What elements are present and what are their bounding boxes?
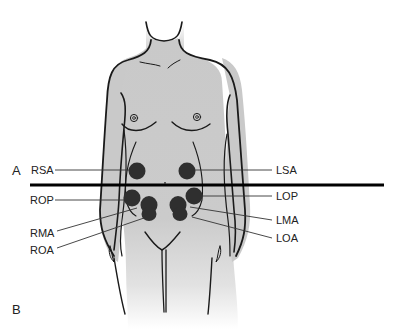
label-lma: LMA bbox=[276, 215, 299, 226]
marker-rop bbox=[124, 190, 141, 207]
label-rop: ROP bbox=[30, 195, 54, 206]
label-rsa: RSA bbox=[31, 165, 54, 176]
body-silhouette bbox=[100, 22, 250, 329]
umbilicus bbox=[164, 182, 166, 184]
marker-lop bbox=[186, 188, 203, 205]
panel-label-a: A bbox=[12, 164, 21, 177]
label-lsa: LSA bbox=[276, 165, 297, 176]
fetal-position-diagram bbox=[0, 0, 399, 329]
label-rma: RMA bbox=[30, 228, 54, 239]
marker-lsa bbox=[179, 163, 196, 180]
chin-line bbox=[146, 22, 182, 41]
panel-label-b: B bbox=[12, 303, 21, 316]
right-thigh-outline bbox=[114, 258, 125, 314]
label-loa: LOA bbox=[276, 233, 298, 244]
marker-loa bbox=[173, 207, 188, 221]
marker-rsa bbox=[129, 163, 146, 180]
label-roa: ROA bbox=[30, 245, 54, 256]
marker-roa bbox=[142, 207, 157, 221]
label-lop: LOP bbox=[276, 191, 298, 202]
